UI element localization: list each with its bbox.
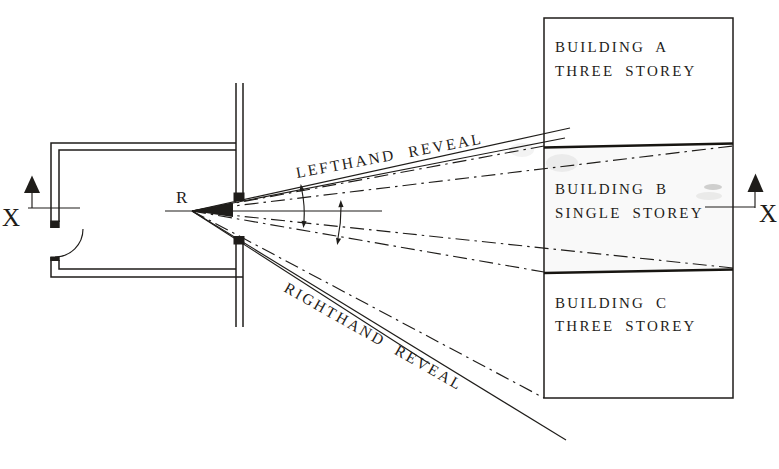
door-jamb-upper-cap <box>50 221 59 229</box>
room-wall-outer-top-left <box>51 143 236 228</box>
building-a-label-group: BUILDING A THREE STOREY <box>555 39 697 79</box>
stain-smudge <box>704 184 722 190</box>
righthand-reveal-line-lower <box>192 211 566 440</box>
section-marker-left: X <box>2 176 80 232</box>
section-label-right: X <box>759 200 777 227</box>
sightline-building-c-bottom-corner <box>192 211 544 398</box>
building-divider-a-b <box>544 144 733 148</box>
building-a-name: BUILDING A <box>555 39 668 55</box>
section-arrow-left-icon <box>24 176 40 194</box>
room-wall-outer-bottom <box>51 257 243 277</box>
figure-canvas: X X R <box>0 0 779 469</box>
angle-arc-outer-arrow-down-icon <box>336 238 341 245</box>
building-a-storeys: THREE STOREY <box>555 63 697 79</box>
section-arrow-right-icon <box>748 174 764 193</box>
building-b-storeys: SINGLE STOREY <box>555 205 704 221</box>
angle-arc-outer <box>338 207 341 238</box>
righthand-reveal-label: RIGHTHAND REVEAL <box>282 279 467 394</box>
building-b-name: BUILDING B <box>555 181 668 197</box>
lefthand-reveal-line-upper <box>192 128 570 211</box>
door-swing-arc <box>55 229 83 257</box>
reference-point: R <box>176 188 188 207</box>
reference-point-label: R <box>176 188 188 207</box>
door-jamb-lower-cap <box>50 257 59 262</box>
stain-blob-3 <box>696 192 722 200</box>
angle-arc-inner <box>302 191 304 221</box>
lefthand-reveal-label: LEFTHAND REVEAL <box>294 130 484 181</box>
stain-blob-1 <box>546 154 578 172</box>
sightline-building-b-near-bottom-corner <box>192 211 544 272</box>
room-wall-inner-bottom <box>59 260 236 269</box>
building-c-label-group: BUILDING C THREE STOREY <box>555 295 697 334</box>
angle-arc-inner-arrow-down-icon <box>302 221 307 228</box>
angle-arc-outer-arrow-up-icon <box>338 200 343 207</box>
building-c-name: BUILDING C <box>555 295 668 311</box>
angle-arc-inner-arrow-up-icon <box>300 184 305 191</box>
building-c-storeys: THREE STOREY <box>555 318 697 334</box>
section-label-left: X <box>2 204 20 231</box>
plan-diagram-svg: X X R <box>0 0 779 469</box>
